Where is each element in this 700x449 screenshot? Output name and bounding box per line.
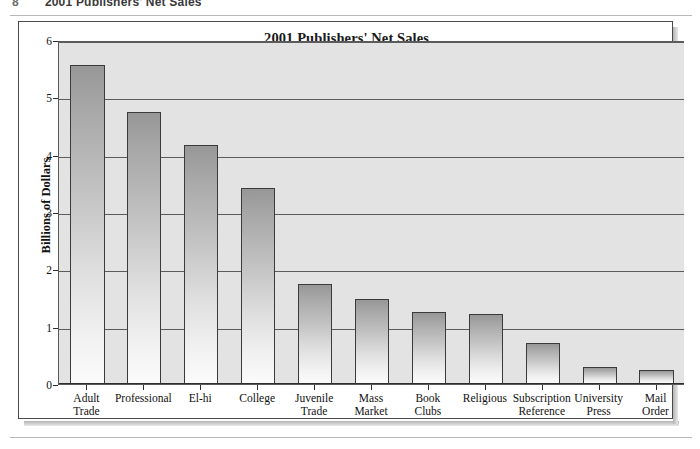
bar bbox=[583, 367, 617, 384]
page-number: 8 bbox=[12, 0, 19, 9]
bar bbox=[184, 145, 218, 384]
plot-area bbox=[58, 41, 684, 385]
bar bbox=[241, 188, 275, 384]
x-tick-mark bbox=[599, 385, 600, 390]
x-tick-mark bbox=[143, 385, 144, 390]
x-axis-label-line: Clubs bbox=[388, 405, 467, 418]
x-tick-mark bbox=[485, 385, 486, 390]
x-tick-mark bbox=[656, 385, 657, 390]
bar bbox=[70, 65, 104, 384]
x-tick-mark bbox=[428, 385, 429, 390]
x-axis-line bbox=[59, 383, 684, 384]
x-tick-mark bbox=[542, 385, 543, 390]
header-divider bbox=[10, 15, 692, 16]
x-tick-mark bbox=[257, 385, 258, 390]
running-header: 82001 Publishers' Net Sales bbox=[0, 0, 700, 12]
footer-divider bbox=[10, 437, 692, 438]
y-tick-label: 1 bbox=[26, 322, 52, 334]
gridline bbox=[59, 99, 684, 100]
bar bbox=[127, 112, 161, 384]
y-tick-label: 0 bbox=[26, 379, 52, 391]
x-tick-mark bbox=[314, 385, 315, 390]
y-tick-label: 4 bbox=[26, 150, 52, 162]
x-axis-label-line: Trade bbox=[47, 405, 126, 418]
figure-shadow-bottom bbox=[24, 421, 679, 426]
bar bbox=[639, 370, 673, 384]
bar bbox=[469, 314, 503, 384]
gridline bbox=[59, 42, 684, 43]
bar bbox=[355, 299, 389, 384]
figure-frame: 2001 Publishers' Net Sales Billions of D… bbox=[18, 21, 673, 419]
running-header-title: 2001 Publishers' Net Sales bbox=[45, 0, 202, 9]
bar bbox=[526, 343, 560, 384]
x-tick-mark bbox=[86, 385, 87, 390]
x-tick-mark bbox=[371, 385, 372, 390]
bar bbox=[412, 312, 446, 384]
x-axis-label-line: Mail bbox=[616, 392, 695, 405]
y-tick-label: 6 bbox=[26, 35, 52, 47]
y-tick-label: 2 bbox=[26, 264, 52, 276]
x-axis-label-line: Order bbox=[616, 405, 695, 418]
bar bbox=[298, 284, 332, 384]
y-tick-label: 5 bbox=[26, 92, 52, 104]
x-tick-mark bbox=[200, 385, 201, 390]
y-tick-label: 3 bbox=[26, 207, 52, 219]
y-tick-mark bbox=[53, 385, 58, 386]
x-axis-label: MailOrder bbox=[616, 392, 695, 417]
